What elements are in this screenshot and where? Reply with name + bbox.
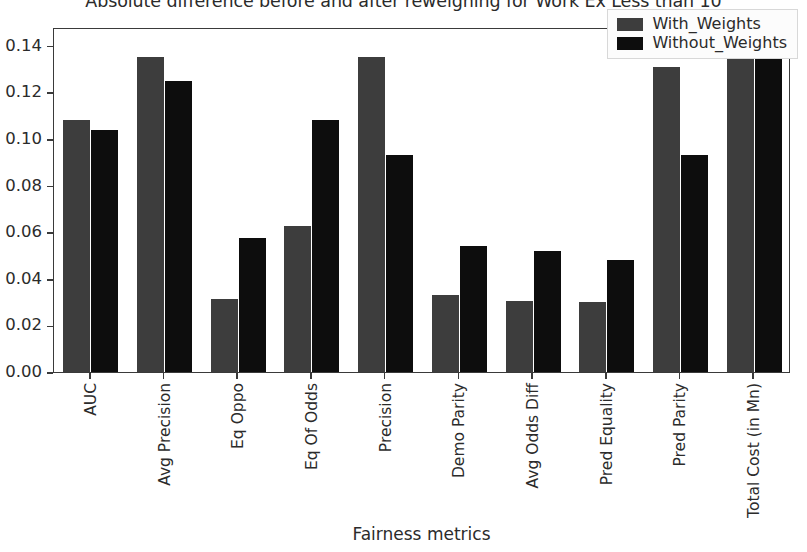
y-axis-tick-label: 0.00	[5, 362, 42, 381]
legend: With_WeightsWithout_Weights	[607, 9, 798, 59]
x-axis-tick-label-text: Eq Of Odds	[303, 383, 321, 470]
bar	[211, 299, 238, 372]
x-axis-tick-label: Total Cost (in Mn)	[753, 248, 771, 383]
x-axis-tick-label-text: Avg Odds Diff	[524, 383, 542, 488]
x-axis-tick-label-text: Total Cost (in Mn)	[745, 383, 763, 518]
x-axis-tick-label-text: Pred Equality	[598, 383, 616, 485]
legend-label: With_Weights	[652, 16, 760, 32]
figure: Absolute difference before and after rew…	[0, 0, 807, 552]
legend-label: Without_Weights	[652, 35, 787, 51]
y-axis-tick-label: 0.14	[5, 36, 42, 55]
bar	[579, 302, 606, 372]
y-axis-tick-label: 0.10	[5, 129, 42, 148]
x-axis-tick-label: Avg Precision	[164, 280, 182, 383]
bar	[432, 295, 459, 372]
y-axis-tick-label: 0.02	[5, 315, 42, 334]
y-axis-tick-label: 0.08	[5, 176, 42, 195]
x-axis-tick-label-text: Avg Precision	[156, 383, 174, 486]
bar	[284, 226, 311, 372]
x-axis-tick-label: Demo Parity	[458, 288, 476, 383]
x-axis-tick-label: AUC	[90, 350, 108, 383]
x-axis-tick-label-text: Demo Parity	[450, 383, 468, 478]
y-axis: 0.000.020.040.060.080.100.120.14	[0, 28, 53, 373]
legend-item[interactable]: With_Weights	[617, 16, 787, 32]
x-axis-tick-label: Pred Parity	[679, 300, 697, 384]
bar	[137, 57, 164, 372]
x-axis-tick-label-text: Pred Parity	[671, 383, 689, 467]
y-axis-tick-label: 0.06	[5, 222, 42, 241]
y-axis-tick-label: 0.12	[5, 82, 42, 101]
bar	[506, 301, 533, 372]
legend-swatch-icon	[617, 18, 643, 31]
x-axis-tick-label-text: Precision	[377, 383, 395, 452]
x-axis-tick-label-text: Eq Oppo	[229, 383, 247, 449]
bar	[358, 57, 385, 372]
bar	[91, 130, 118, 372]
x-axis-tick-label: Pred Equality	[606, 281, 624, 383]
bar	[727, 32, 754, 372]
legend-item[interactable]: Without_Weights	[617, 35, 787, 51]
y-axis-tick-label: 0.04	[5, 269, 42, 288]
x-axis-tick-label: Eq Of Odds	[311, 296, 329, 383]
x-axis-tick-label: Eq Oppo	[237, 317, 255, 383]
bar	[653, 67, 680, 372]
x-axis-tick-label-text: AUC	[82, 383, 100, 416]
legend-swatch-icon	[617, 37, 643, 50]
bar	[63, 120, 90, 372]
x-axis-label: Fairness metrics	[53, 524, 790, 544]
x-axis-tick-label: Avg Odds Diff	[532, 278, 550, 383]
x-axis-tick-label: Precision	[385, 314, 403, 383]
